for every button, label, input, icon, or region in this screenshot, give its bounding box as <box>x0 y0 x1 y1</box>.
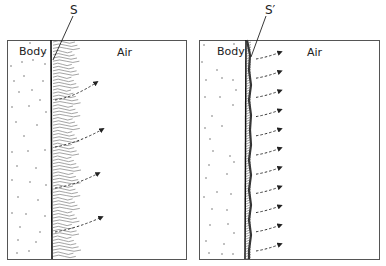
left-body-label: Body <box>19 45 47 58</box>
left-surface-leader <box>53 16 73 60</box>
right-surface-label: S′ <box>265 3 276 17</box>
left-air-label: Air <box>117 46 133 59</box>
left-frame <box>8 41 187 260</box>
flow-arrow <box>256 244 281 251</box>
right-surface-wall <box>245 40 246 259</box>
flow-arrow <box>256 71 281 78</box>
right-panel: S′ Body Air <box>200 3 380 260</box>
diagram-canvas: S Body Air S′ Body Air <box>0 0 386 266</box>
flow-arrow <box>256 90 281 97</box>
flow-arrow <box>256 186 281 193</box>
left-body-dots <box>10 42 46 253</box>
flow-arrow <box>256 52 281 59</box>
flow-arrow <box>256 148 281 155</box>
flow-arrow <box>256 110 281 117</box>
flow-arrow <box>256 129 281 136</box>
flow-arrow <box>256 167 281 174</box>
flow-arrow <box>256 225 281 232</box>
left-panel: S Body Air <box>8 3 187 260</box>
right-body-label: Body <box>217 45 245 58</box>
left-surface-label: S <box>70 3 78 17</box>
right-frame <box>200 41 380 260</box>
left-boundary-layer-waves <box>53 41 81 258</box>
right-air-label: Air <box>307 46 323 59</box>
left-surface-wall <box>51 40 52 259</box>
right-surface-leader <box>251 16 266 57</box>
flow-arrow <box>256 206 281 213</box>
flow-arrow <box>55 82 97 100</box>
right-body-dots <box>201 43 236 254</box>
right-flow-arrows <box>256 52 281 251</box>
